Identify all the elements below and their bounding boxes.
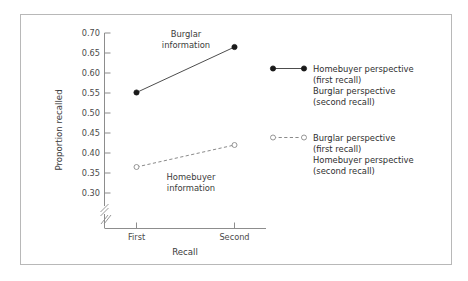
legend-filled-line2: (first recall) <box>313 75 361 85</box>
y-tick-label-4: 0.50 <box>82 108 100 118</box>
legend-entry-filled[interactable]: Homebuyer perspective (first recall) Bur… <box>270 64 413 107</box>
y-tick-label-1: 0.65 <box>82 48 100 58</box>
legend-filled-line3: Burglar perspective <box>313 86 395 96</box>
series-homebuyer-information <box>134 143 237 170</box>
y-axis-title: Proportion recalled <box>54 89 64 170</box>
series-burglar-information <box>134 44 237 95</box>
annotation-homebuyer-line1: Homebuyer <box>167 172 216 182</box>
legend-open-line2: (first recall) <box>313 144 361 154</box>
legend-marker-open-left <box>271 135 276 140</box>
y-axis: 0.70 0.65 0.60 0.55 0.50 0.45 0.40 0.35 … <box>54 28 111 228</box>
y-tick-label-7: 0.35 <box>82 168 100 178</box>
y-tick-label-0: 0.70 <box>82 28 100 38</box>
y-tick-label-8: 0.30 <box>82 188 100 198</box>
legend-marker-filled-right <box>301 66 306 71</box>
data-point-open-second <box>232 143 237 148</box>
data-point-filled-first <box>134 90 139 95</box>
chart-plot: 0.70 0.65 0.60 0.55 0.50 0.45 0.40 0.35 … <box>0 0 468 281</box>
series-line-solid <box>137 47 235 93</box>
x-tick-label-first: First <box>128 232 146 242</box>
y-tick-label-3: 0.55 <box>82 88 100 98</box>
legend-entry-open[interactable]: Burglar perspective (first recall) Homeb… <box>271 133 414 176</box>
legend-open-line4: (second recall) <box>313 166 375 176</box>
legend-open-line1: Burglar perspective <box>313 133 395 143</box>
annotation-burglar-line2: information <box>162 40 210 50</box>
legend: Homebuyer perspective (first recall) Bur… <box>270 64 413 176</box>
legend-filled-line1: Homebuyer perspective <box>313 64 414 74</box>
y-tick-label-6: 0.40 <box>82 148 100 158</box>
data-point-filled-second <box>232 44 237 49</box>
x-axis-title: Recall <box>172 247 198 257</box>
y-tick-label-2: 0.60 <box>82 68 100 78</box>
legend-open-line3: Homebuyer perspective <box>313 155 414 165</box>
annotation-homebuyer-line2: information <box>167 183 215 193</box>
legend-filled-line4: (second recall) <box>313 97 375 107</box>
legend-marker-filled-left <box>270 66 275 71</box>
y-tick-label-5: 0.45 <box>82 128 100 138</box>
data-point-open-first <box>134 165 139 170</box>
x-axis: First Second Recall <box>101 215 266 257</box>
annotation-burglar-line1: Burglar <box>171 29 202 39</box>
annotation-homebuyer-information: Homebuyer information <box>167 172 216 193</box>
legend-marker-open-right <box>302 135 307 140</box>
x-tick-label-second: Second <box>219 232 249 242</box>
series-line-dashed <box>137 145 235 167</box>
x-axis-break-icon <box>101 215 111 224</box>
annotation-burglar-information: Burglar information <box>162 29 210 50</box>
